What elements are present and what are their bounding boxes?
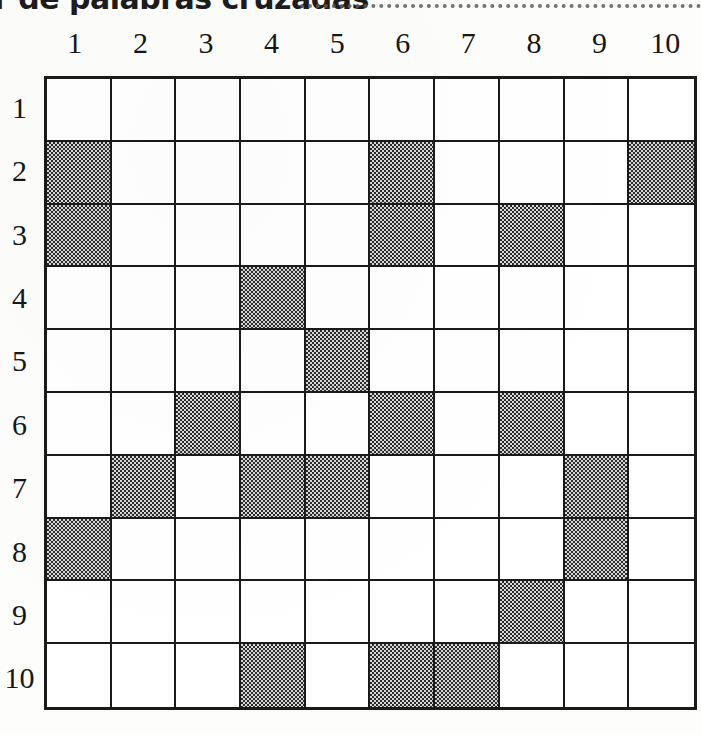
grid-cell[interactable] <box>565 644 630 707</box>
grid-cell[interactable] <box>112 267 177 330</box>
grid-cell[interactable] <box>112 644 177 707</box>
grid-cell[interactable] <box>306 205 371 268</box>
grid-cell[interactable] <box>47 330 112 393</box>
grid-cell-blocked[interactable] <box>500 205 565 268</box>
grid-cell[interactable] <box>241 79 306 142</box>
grid-cell[interactable] <box>47 267 112 330</box>
grid-cell[interactable] <box>112 142 177 205</box>
grid-cell[interactable] <box>370 267 435 330</box>
grid-cell[interactable] <box>500 330 565 393</box>
grid-cell[interactable] <box>176 142 241 205</box>
grid-cell[interactable] <box>112 519 177 582</box>
grid-cell[interactable] <box>435 267 500 330</box>
grid-cell[interactable] <box>565 205 630 268</box>
grid-cell[interactable] <box>629 519 694 582</box>
grid-cell[interactable] <box>47 79 112 142</box>
grid-cell[interactable] <box>47 644 112 707</box>
grid-cell-blocked[interactable] <box>176 393 241 456</box>
crossword-grid[interactable] <box>44 76 697 710</box>
grid-cell[interactable] <box>629 644 694 707</box>
grid-cell[interactable] <box>500 456 565 519</box>
grid-cell-blocked[interactable] <box>370 205 435 268</box>
grid-cell[interactable] <box>176 456 241 519</box>
grid-cell[interactable] <box>629 393 694 456</box>
grid-cell[interactable] <box>370 79 435 142</box>
grid-cell[interactable] <box>500 644 565 707</box>
grid-cell[interactable] <box>47 456 112 519</box>
grid-cell[interactable] <box>306 142 371 205</box>
grid-cell[interactable] <box>112 79 177 142</box>
grid-cell[interactable] <box>176 267 241 330</box>
grid-cell[interactable] <box>176 644 241 707</box>
grid-cell[interactable] <box>629 581 694 644</box>
grid-cell[interactable] <box>435 519 500 582</box>
grid-cell[interactable] <box>435 205 500 268</box>
grid-cell-blocked[interactable] <box>112 456 177 519</box>
grid-cell-blocked[interactable] <box>47 205 112 268</box>
grid-cell[interactable] <box>306 519 371 582</box>
grid-cell[interactable] <box>435 142 500 205</box>
grid-cell[interactable] <box>629 267 694 330</box>
grid-cell[interactable] <box>565 142 630 205</box>
grid-cell[interactable] <box>241 581 306 644</box>
grid-cell[interactable] <box>435 581 500 644</box>
grid-cell[interactable] <box>370 456 435 519</box>
grid-cell[interactable] <box>306 267 371 330</box>
grid-cell-blocked[interactable] <box>500 393 565 456</box>
grid-cell[interactable] <box>112 393 177 456</box>
grid-cell-blocked[interactable] <box>241 456 306 519</box>
grid-cell[interactable] <box>241 205 306 268</box>
grid-cell[interactable] <box>176 79 241 142</box>
grid-cell[interactable] <box>370 581 435 644</box>
grid-cell[interactable] <box>565 330 630 393</box>
grid-cell[interactable] <box>565 79 630 142</box>
grid-cell[interactable] <box>176 519 241 582</box>
grid-cell[interactable] <box>241 142 306 205</box>
grid-cell-blocked[interactable] <box>565 519 630 582</box>
grid-cell[interactable] <box>241 519 306 582</box>
grid-cell[interactable] <box>629 79 694 142</box>
grid-cell-blocked[interactable] <box>435 644 500 707</box>
grid-cell[interactable] <box>241 393 306 456</box>
grid-cell[interactable] <box>112 330 177 393</box>
grid-cell-blocked[interactable] <box>241 267 306 330</box>
grid-cell[interactable] <box>306 79 371 142</box>
grid-cell[interactable] <box>435 456 500 519</box>
grid-cell-blocked[interactable] <box>306 456 371 519</box>
grid-cell-blocked[interactable] <box>565 456 630 519</box>
grid-cell[interactable] <box>112 581 177 644</box>
grid-cell[interactable] <box>241 330 306 393</box>
grid-cell-blocked[interactable] <box>241 644 306 707</box>
grid-cell-blocked[interactable] <box>47 519 112 582</box>
grid-cell-blocked[interactable] <box>500 581 565 644</box>
grid-cell[interactable] <box>500 79 565 142</box>
grid-cell[interactable] <box>500 267 565 330</box>
grid-cell[interactable] <box>370 330 435 393</box>
grid-cell-blocked[interactable] <box>370 142 435 205</box>
grid-cell[interactable] <box>306 581 371 644</box>
grid-cell[interactable] <box>435 330 500 393</box>
grid-cell-blocked[interactable] <box>47 142 112 205</box>
grid-cell[interactable] <box>435 393 500 456</box>
grid-cell[interactable] <box>47 393 112 456</box>
grid-cell[interactable] <box>629 205 694 268</box>
grid-cell[interactable] <box>176 330 241 393</box>
grid-cell[interactable] <box>176 205 241 268</box>
grid-cell[interactable] <box>176 581 241 644</box>
grid-cell-blocked[interactable] <box>370 644 435 707</box>
grid-cell[interactable] <box>500 142 565 205</box>
grid-cell[interactable] <box>306 393 371 456</box>
grid-cell[interactable] <box>565 267 630 330</box>
grid-cell[interactable] <box>565 393 630 456</box>
grid-cell[interactable] <box>112 205 177 268</box>
grid-cell[interactable] <box>47 581 112 644</box>
grid-cell[interactable] <box>435 79 500 142</box>
grid-cell-blocked[interactable] <box>370 393 435 456</box>
grid-cell-blocked[interactable] <box>629 142 694 205</box>
grid-cell[interactable] <box>629 330 694 393</box>
grid-cell[interactable] <box>629 456 694 519</box>
grid-cell[interactable] <box>500 519 565 582</box>
grid-cell[interactable] <box>306 644 371 707</box>
grid-cell[interactable] <box>565 581 630 644</box>
grid-cell[interactable] <box>370 519 435 582</box>
